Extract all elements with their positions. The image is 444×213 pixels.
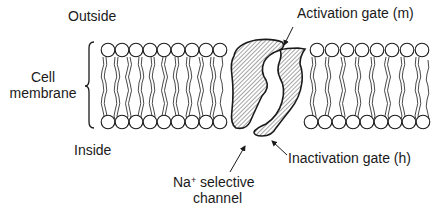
na-ion-charge: +	[191, 175, 196, 185]
arrow-inactivation-gate-icon	[272, 141, 287, 155]
lipid-heads-left	[101, 43, 227, 129]
arrow-activation-gate-icon	[284, 27, 293, 45]
inside-label: Inside	[74, 142, 111, 158]
outside-label: Outside	[68, 8, 116, 24]
na-channel-label-line2: channel	[193, 190, 242, 206]
lipid-heads-right	[304, 43, 430, 129]
cell-membrane-label-line1: Cell	[6, 69, 80, 85]
inactivation-gate-label: Inactivation gate (h)	[288, 150, 411, 166]
lipid-tails-right	[310, 57, 429, 122]
lipid-tails-left	[101, 57, 223, 119]
na-ion-symbol: Na	[173, 174, 191, 190]
na-channel-label-rest: selective	[196, 174, 254, 190]
arrow-na-channel-icon	[230, 146, 245, 172]
activation-gate-label: Activation gate (m)	[297, 5, 414, 21]
membrane-brace-icon	[85, 42, 94, 128]
cell-membrane-label-line2: membrane	[6, 85, 80, 101]
na-channel-label-line1: Na+ selective	[173, 174, 255, 190]
